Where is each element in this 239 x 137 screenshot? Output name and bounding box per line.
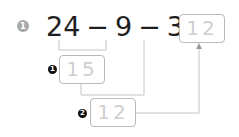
operand-a: 24 [46,10,80,44]
step-2-marker: 2 [78,109,87,118]
minus-sign-1: − [86,10,109,44]
answer-box[interactable]: 12 [179,14,225,43]
step-2-box[interactable]: 12 [90,98,136,127]
step-1-box[interactable]: 15 [59,55,105,84]
minus-sign-2: − [138,10,161,44]
operand-b: 9 [115,10,132,44]
step-1-marker: 1 [48,65,57,74]
problem-number-badge: 1 [17,20,29,32]
